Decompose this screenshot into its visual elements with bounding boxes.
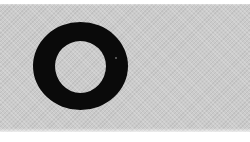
scan-speck	[115, 57, 117, 59]
image-canvas	[0, 0, 250, 142]
ring-icon	[33, 22, 128, 110]
swatch-bottom-edge	[0, 128, 250, 134]
swatch-top-edge	[0, 0, 250, 6]
